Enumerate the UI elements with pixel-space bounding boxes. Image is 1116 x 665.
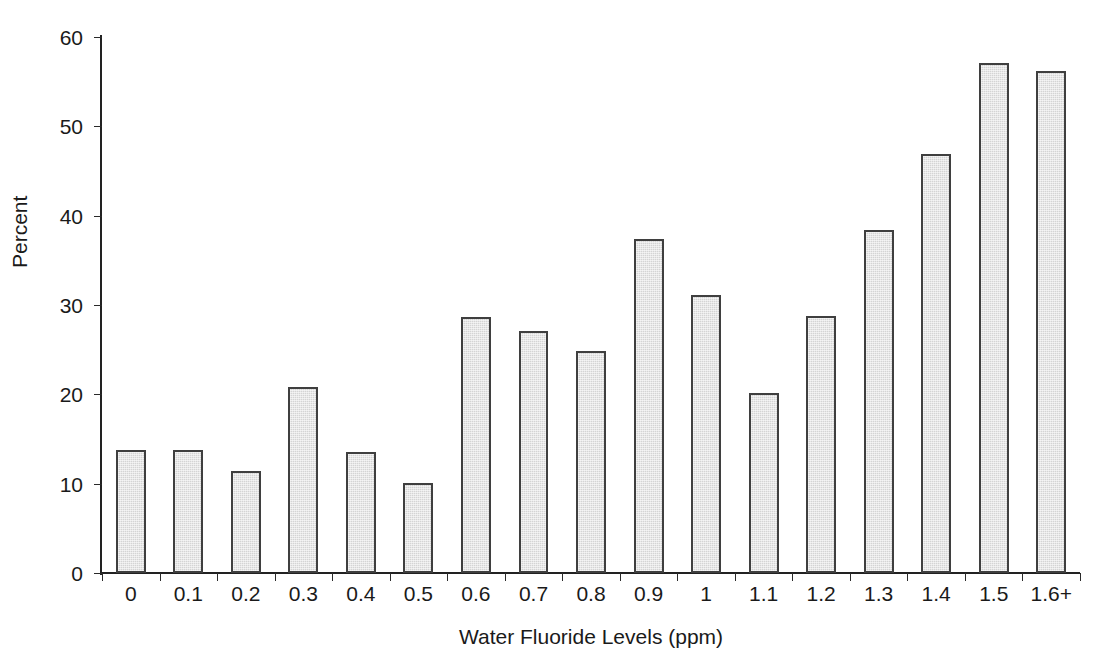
- bar-slot: [447, 37, 505, 573]
- bar-slot: [850, 37, 908, 573]
- bar: [749, 393, 779, 573]
- bar: [864, 230, 894, 573]
- y-axis-tick: 60: [94, 37, 102, 38]
- bar-slot: [620, 37, 678, 573]
- bar: [691, 295, 721, 573]
- bar-slot: [735, 37, 793, 573]
- bar-slot: [275, 37, 333, 573]
- x-axis-tick-label: 1.1: [735, 580, 793, 608]
- x-axis-tick-label: 0.4: [332, 580, 390, 608]
- bar: [403, 483, 433, 573]
- y-axis-tick-label: 10: [60, 472, 83, 498]
- x-axis-tick-label: 1: [677, 580, 735, 608]
- x-axis-tick-label: 0.1: [160, 580, 218, 608]
- x-axis-tick-label: 0.9: [620, 580, 678, 608]
- y-axis-tick-label: 60: [60, 25, 83, 51]
- y-axis-title: Percent: [8, 196, 32, 268]
- bar-slot: [907, 37, 965, 573]
- bar: [116, 450, 146, 573]
- y-axis-tick-label: 40: [60, 204, 83, 230]
- bars-group: [102, 37, 1080, 573]
- x-axis-tick-label: 1.5: [965, 580, 1023, 608]
- chart-figure: Percent 0102030405060 00.10.20.30.40.50.…: [0, 0, 1116, 665]
- bar: [346, 452, 376, 573]
- plot-area: 0102030405060: [102, 37, 1080, 573]
- x-axis-tick-label: 0.6: [447, 580, 505, 608]
- bar: [634, 239, 664, 573]
- bar-slot: [160, 37, 218, 573]
- x-axis-tick-label: 1.4: [907, 580, 965, 608]
- bar-slot: [102, 37, 160, 573]
- x-axis-tick-label: 0.3: [275, 580, 333, 608]
- x-axis-tick-label: 0.7: [505, 580, 563, 608]
- x-axis-tick-labels: 00.10.20.30.40.50.60.70.80.911.11.21.31.…: [102, 580, 1080, 608]
- x-axis-tick-label: 0: [102, 580, 160, 608]
- y-axis-tick-label: 30: [60, 293, 83, 319]
- x-axis-tick-label: 1.3: [850, 580, 908, 608]
- y-axis-tick-label: 0: [71, 561, 83, 587]
- x-axis-tick-label: 0.8: [562, 580, 620, 608]
- y-axis-tick: 10: [94, 484, 102, 485]
- bar-slot: [965, 37, 1023, 573]
- y-axis-tick: 20: [94, 394, 102, 395]
- bar-slot: [332, 37, 390, 573]
- bar: [288, 387, 318, 573]
- x-axis-title: Water Fluoride Levels (ppm): [102, 623, 1080, 651]
- bar: [921, 154, 951, 573]
- x-axis-tick: [1080, 573, 1081, 581]
- bar: [173, 450, 203, 573]
- bar: [806, 316, 836, 573]
- x-axis-tick-label: 0.5: [390, 580, 448, 608]
- bar: [576, 351, 606, 573]
- bar-slot: [562, 37, 620, 573]
- bar: [979, 63, 1009, 573]
- y-axis-tick: 0: [94, 573, 102, 574]
- bar: [461, 317, 491, 573]
- y-axis-tick-label: 50: [60, 114, 83, 140]
- bar-slot: [1023, 37, 1081, 573]
- x-axis-tick-label: 1.2: [792, 580, 850, 608]
- bar: [519, 331, 549, 573]
- x-axis-tick-label: 0.2: [217, 580, 275, 608]
- bar-slot: [505, 37, 563, 573]
- y-axis-tick-label: 20: [60, 382, 83, 408]
- y-axis-tick: 30: [94, 305, 102, 306]
- bar: [231, 471, 261, 573]
- bar-slot: [390, 37, 448, 573]
- y-axis-tick: 50: [94, 126, 102, 127]
- bar-slot: [792, 37, 850, 573]
- y-axis-tick: 40: [94, 216, 102, 217]
- bar-slot: [677, 37, 735, 573]
- x-axis-tick-label: 1.6+: [1023, 580, 1081, 608]
- bar: [1036, 71, 1066, 573]
- bar-slot: [217, 37, 275, 573]
